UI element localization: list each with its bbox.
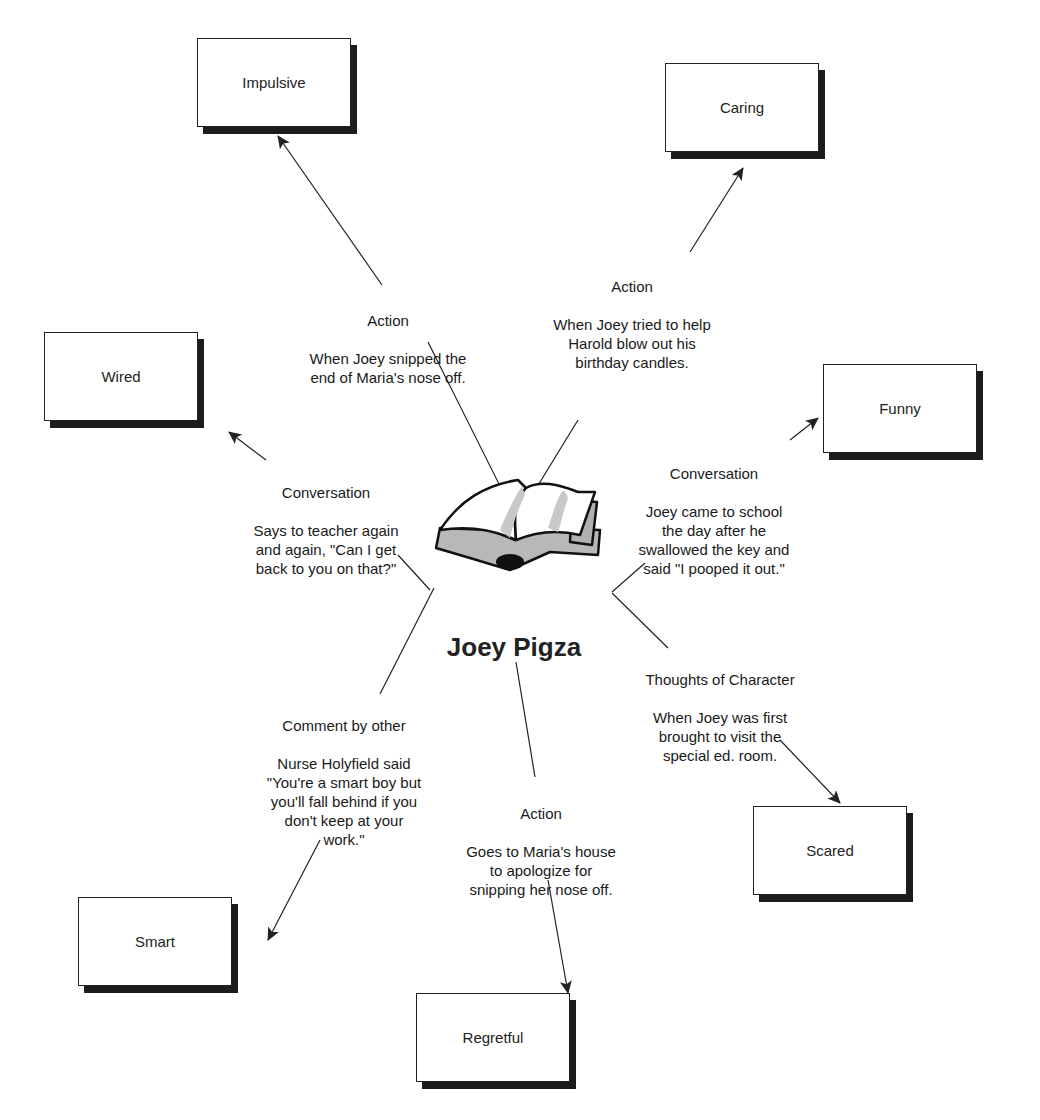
evidence-type: Action	[553, 277, 711, 296]
evidence-text: When Joey was first brought to visit the…	[645, 708, 794, 765]
trait-label: Smart	[135, 933, 175, 950]
evidence-wired: Conversation Says to teacher again and a…	[253, 464, 398, 597]
trait-label: Caring	[720, 99, 764, 116]
evidence-text: Nurse Holyfield said "You're a smart boy…	[267, 754, 421, 849]
trait-label: Regretful	[463, 1029, 524, 1046]
central-character-title: Joey Pigza	[447, 632, 581, 663]
trait-box-regretful[interactable]: Regretful	[416, 993, 570, 1082]
evidence-type: Action	[466, 804, 616, 823]
trait-label: Funny	[879, 400, 921, 417]
trait-label: Wired	[101, 368, 140, 385]
trait-label: Scared	[806, 842, 854, 859]
evidence-impulsive: Action When Joey snipped the end of Mari…	[310, 292, 467, 406]
evidence-scared: Thoughts of Character When Joey was firs…	[645, 651, 794, 784]
evidence-caring: Action When Joey tried to help Harold bl…	[553, 258, 711, 391]
evidence-type: Action	[310, 311, 467, 330]
evidence-text: Says to teacher again and again, "Can I …	[253, 521, 398, 578]
trait-label: Impulsive	[242, 74, 305, 91]
trait-box-wired[interactable]: Wired	[44, 332, 198, 421]
evidence-text: Joey came to school the day after he swa…	[639, 502, 790, 578]
evidence-smart: Comment by other Nurse Holyfield said "Y…	[267, 697, 421, 868]
evidence-type: Thoughts of Character	[645, 670, 794, 689]
character-trait-map: Impulsive Caring Wired Funny Scared Smar…	[0, 0, 1040, 1120]
evidence-text: When Joey snipped the end of Maria's nos…	[310, 349, 467, 387]
evidence-type: Conversation	[253, 483, 398, 502]
evidence-text: Goes to Maria's house to apologize for s…	[466, 842, 616, 899]
trait-box-caring[interactable]: Caring	[665, 63, 819, 152]
trait-box-impulsive[interactable]: Impulsive	[197, 38, 351, 127]
evidence-funny: Conversation Joey came to school the day…	[639, 445, 790, 597]
evidence-text: When Joey tried to help Harold blow out …	[553, 315, 711, 372]
trait-box-smart[interactable]: Smart	[78, 897, 232, 986]
evidence-regretful: Action Goes to Maria's house to apologiz…	[466, 785, 616, 918]
evidence-type: Comment by other	[267, 716, 421, 735]
trait-box-scared[interactable]: Scared	[753, 806, 907, 895]
trait-box-funny[interactable]: Funny	[823, 364, 977, 453]
evidence-type: Conversation	[639, 464, 790, 483]
open-book-icon	[430, 420, 610, 580]
